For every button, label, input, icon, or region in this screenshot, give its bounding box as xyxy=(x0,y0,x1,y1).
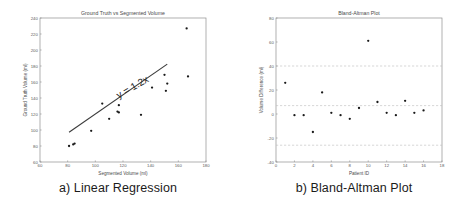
x-tick-label: 60 xyxy=(38,163,43,168)
y-axis-label: Ground Truth Volume (ml) xyxy=(23,63,28,116)
x-tick-label: 14 xyxy=(403,163,408,168)
x-tick-label: 140 xyxy=(147,163,155,168)
x-tick-label: 18 xyxy=(440,163,445,168)
x-tick-label: 80 xyxy=(65,163,70,168)
x-tick-label: 4 xyxy=(312,163,315,168)
data-point xyxy=(118,104,120,106)
y-tick-label: 0 xyxy=(271,112,274,117)
data-point xyxy=(163,74,165,76)
y-tick-label: 140 xyxy=(31,96,39,101)
x-tick-label: 6 xyxy=(330,163,333,168)
y-tick-label: 220 xyxy=(31,32,39,37)
data-point xyxy=(386,112,388,114)
x-tick-label: 120 xyxy=(119,163,127,168)
data-point xyxy=(404,100,406,102)
x-tick-label: 8 xyxy=(349,163,352,168)
y-tick-label: -20 xyxy=(268,136,275,141)
data-point xyxy=(358,107,360,109)
chart-title: Bland-Altman Plot xyxy=(338,10,380,16)
x-tick-label: 10 xyxy=(366,163,371,168)
y-tick-label: 60 xyxy=(269,40,274,45)
data-point xyxy=(187,75,189,77)
data-point xyxy=(413,112,415,114)
data-point xyxy=(284,82,286,84)
chart-title: Ground Truth vs Segmented Volume xyxy=(81,10,165,16)
data-point xyxy=(165,90,167,92)
y-tick-label: 100 xyxy=(31,128,39,133)
data-point xyxy=(422,109,424,111)
y-tick-label: 40 xyxy=(269,64,274,69)
data-point xyxy=(68,145,70,147)
data-point xyxy=(108,118,110,120)
bland-altman-chart: Bland-Altman Plot024681012141618-40-2002… xyxy=(236,0,472,180)
y-tick-label: 200 xyxy=(31,48,39,53)
plot-frame xyxy=(276,18,442,162)
data-point xyxy=(303,114,305,116)
panel-caption-bland-altman: b) Bland-Altman Plot xyxy=(236,181,472,195)
data-point xyxy=(312,131,314,133)
linear-regression-chart: Ground Truth vs Segmented Volume60801001… xyxy=(0,0,236,180)
figure-panel-group: Ground Truth vs Segmented Volume60801001… xyxy=(0,0,472,207)
x-tick-label: 100 xyxy=(92,163,100,168)
y-tick-label: 20 xyxy=(269,88,274,93)
x-axis-label: Patient ID xyxy=(349,171,370,176)
y-tick-label: 160 xyxy=(31,80,39,85)
x-tick-label: 12 xyxy=(384,163,389,168)
data-point xyxy=(73,142,75,144)
y-tick-label: 80 xyxy=(269,16,274,21)
data-point xyxy=(140,114,142,116)
data-point xyxy=(321,91,323,93)
data-point xyxy=(395,114,397,116)
panel-bland-altman: Bland-Altman Plot024681012141618-40-2002… xyxy=(236,0,472,207)
y-tick-label: 240 xyxy=(31,16,39,21)
data-point xyxy=(349,118,351,120)
y-tick-label: -40 xyxy=(268,160,275,165)
y-tick-label: 120 xyxy=(31,112,39,117)
y-tick-label: 80 xyxy=(33,144,38,149)
y-tick-label: 180 xyxy=(31,64,39,69)
data-point xyxy=(367,40,369,42)
data-point xyxy=(339,114,341,116)
data-point xyxy=(101,102,103,104)
data-point xyxy=(90,130,92,132)
panel-linear-regression: Ground Truth vs Segmented Volume60801001… xyxy=(0,0,236,207)
data-point xyxy=(185,27,187,29)
data-point xyxy=(118,111,120,113)
data-point xyxy=(151,86,153,88)
panel-caption-linear-regression: a) Linear Regression xyxy=(0,181,236,195)
x-tick-label: 160 xyxy=(175,163,183,168)
x-axis-label: Segmented Volume (ml) xyxy=(98,171,148,176)
x-tick-label: 2 xyxy=(293,163,296,168)
data-point xyxy=(330,112,332,114)
data-point xyxy=(293,114,295,116)
x-tick-label: 16 xyxy=(421,163,426,168)
data-point xyxy=(166,82,168,84)
data-point xyxy=(376,101,378,103)
x-tick-label: 0 xyxy=(275,163,278,168)
y-axis-label: Volume Difference (ml) xyxy=(259,66,264,113)
x-tick-label: 180 xyxy=(202,163,210,168)
y-tick-label: 60 xyxy=(33,160,38,165)
